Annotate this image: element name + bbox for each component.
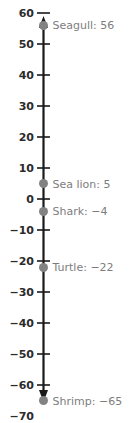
tick-label: −10 bbox=[0, 225, 34, 236]
tick-label: 10 bbox=[0, 163, 34, 174]
tick-label: 20 bbox=[0, 132, 34, 143]
tick-label: −70 bbox=[0, 411, 34, 422]
data-point-label: Turtle: −22 bbox=[53, 262, 114, 273]
tick-label: −60 bbox=[0, 380, 34, 391]
tick-label: −30 bbox=[0, 287, 34, 298]
tick-label: 50 bbox=[0, 39, 34, 50]
data-point-label: Shrimp: −65 bbox=[53, 396, 123, 407]
tick-label: 30 bbox=[0, 101, 34, 112]
data-point-dot[interactable] bbox=[39, 21, 48, 30]
tick-label: 0 bbox=[0, 194, 34, 205]
data-point-label: Sea lion: 5 bbox=[53, 179, 111, 190]
data-point-dot[interactable] bbox=[39, 207, 48, 216]
tick-label: −40 bbox=[0, 318, 34, 329]
data-point-dot[interactable] bbox=[39, 179, 48, 188]
tick-label: 60 bbox=[0, 8, 34, 19]
data-point-dot[interactable] bbox=[39, 396, 48, 405]
tick-label: 40 bbox=[0, 70, 34, 81]
tick-label: −20 bbox=[0, 256, 34, 267]
tick-label: −50 bbox=[0, 349, 34, 360]
data-point-dot[interactable] bbox=[39, 263, 48, 272]
data-point-label: Shark: −4 bbox=[53, 206, 108, 217]
data-point-label: Seagull: 56 bbox=[53, 20, 115, 31]
